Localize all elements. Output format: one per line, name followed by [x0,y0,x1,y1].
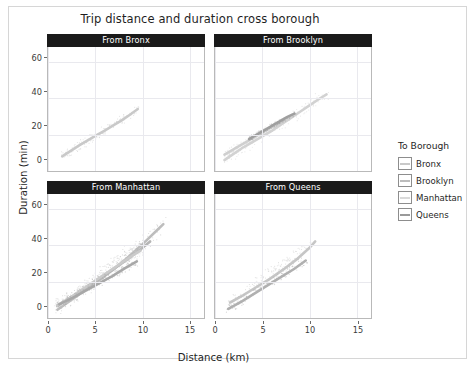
scatter-point [226,312,227,313]
scatter-point [125,252,126,253]
scatter-point [271,128,272,129]
trend-line-queens [59,261,137,304]
scatter-point [259,288,260,289]
scatter-point [74,145,75,146]
scatter-point [99,274,100,275]
legend-item-bronx[interactable]: Bronx [398,156,462,171]
scatter-point [235,159,236,160]
legend-swatch-line [400,214,410,216]
scatter-point [83,139,84,140]
scatter-point [265,278,266,279]
facet-panel-from-bronx: From Bronx [47,34,205,172]
scatter-point [92,141,93,142]
legend-item-queens[interactable]: Queens [398,207,462,222]
scatter-point [55,309,56,310]
gridline-vertical [190,47,191,171]
scatter-point [126,264,127,265]
scatter-point [240,294,241,295]
trend-line-brooklyn [224,94,326,160]
scatter-point [70,295,71,296]
legend-item-brooklyn[interactable]: Brooklyn [398,173,462,188]
scatter-point [284,260,285,261]
facet-plot-area [47,194,205,319]
scatter-point [67,302,68,303]
scatter-point [148,233,149,234]
scatter-point [224,162,225,163]
scatter-point [101,127,102,128]
scatter-point [294,258,295,259]
scatter-point [122,254,123,255]
scatter-point [91,292,92,293]
scatter-point [283,259,284,260]
scatter-point [88,143,89,144]
scatter-point [65,304,66,305]
scatter-point [245,289,246,290]
gridline-vertical [215,47,216,171]
y-tick-label: 0 [18,155,42,165]
scatter-point [110,265,111,266]
scatter-point [74,290,75,291]
scatter-point [130,252,131,253]
gridline-horizontal [48,62,204,63]
scatter-point [289,266,290,267]
scatter-point [129,261,130,262]
scatter-point [119,259,120,260]
scatter-point [93,140,94,141]
scatter-point [102,285,103,286]
scatter-point [92,140,93,141]
scatter-point [110,267,111,268]
x-tick-mark [263,321,264,324]
scatter-point [290,259,291,260]
legend-item-label: Bronx [416,159,441,169]
scatter-point [231,159,232,160]
scatter-point [227,150,228,151]
scatter-point [238,296,239,297]
scatter-point [114,257,115,258]
scatter-point [129,269,130,270]
scatter-point [293,252,294,253]
scatter-point [117,119,118,120]
scatter-point [304,106,305,107]
scatter-point [292,265,293,266]
scatter-point [91,289,92,290]
scatter-point [233,303,234,304]
scatter-point [274,266,275,267]
scatter-point [233,294,234,295]
scatter-point [165,217,166,218]
scatter-point [109,273,110,274]
gridline-vertical [357,47,358,171]
scatter-point [282,260,283,261]
scatter-point [241,305,242,306]
gridline-horizontal [48,209,204,210]
scatter-point [131,253,132,254]
legend: To Borough Bronx Brooklyn Manhattan Quee… [398,140,462,224]
scatter-point [139,241,140,242]
scatter-point [160,222,161,223]
scatter-point [279,123,280,124]
scatter-point [90,140,91,141]
scatter-point [125,271,126,272]
scatter-point [232,308,233,309]
x-tick-mark [310,321,311,324]
scatter-point [293,251,294,252]
scatter-point [241,142,242,143]
scatter-point [278,264,279,265]
scatter-point [114,122,115,123]
gridline-horizontal [215,62,371,63]
scatter-point [80,148,81,149]
scatter-point [289,120,290,121]
scatter-point [269,124,270,125]
scatter-point [131,267,132,268]
scatter-point [104,277,105,278]
scatter-point [93,275,94,276]
scatter-point [298,261,299,262]
scatter-point [231,147,232,148]
scatter-point [123,114,124,115]
scatter-point [293,111,294,112]
scatter-point [71,292,72,293]
y-tick-label: 60 [18,200,42,210]
scatter-point [74,299,75,300]
legend-item-manhattan[interactable]: Manhattan [398,190,462,205]
scatter-point [113,257,114,258]
scatter-point [133,250,134,251]
